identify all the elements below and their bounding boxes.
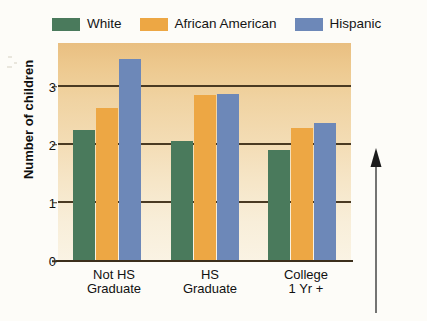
- x-tick-line1: HS: [160, 268, 260, 282]
- chart-figure: White African American Hispanic 0123 Num…: [0, 0, 427, 321]
- x-tick-line1: Not HS: [64, 268, 164, 282]
- gridline-3: [58, 85, 351, 87]
- bar-african-american-group-2: [194, 95, 216, 261]
- x-tick-line2: Graduate: [64, 282, 164, 296]
- legend-swatch-white: [52, 18, 80, 31]
- x-tick-line2: Graduate: [160, 282, 260, 296]
- bar-african-american-group-3: [291, 128, 313, 261]
- plot-area: [58, 43, 351, 261]
- x-tick-line2: 1 Yr +: [256, 282, 356, 296]
- y-tick-mark-0: [52, 260, 57, 262]
- x-tick-label-group-2: HS Graduate: [160, 268, 260, 296]
- legend-item-white: White: [52, 17, 122, 31]
- chart-legend: White African American Hispanic: [52, 14, 399, 34]
- legend-swatch-hispanic: [295, 18, 323, 31]
- bar-hispanic-group-3: [314, 123, 336, 261]
- legend-item-african-american: African American: [140, 17, 277, 31]
- y-tick-mark-1: [52, 202, 57, 204]
- y-tick-mark-3: [52, 86, 57, 88]
- y-tick-mark-2: [52, 144, 57, 146]
- y-tick-label-0: 0: [10, 254, 56, 269]
- x-tick-line1: College: [256, 268, 356, 282]
- legend-label-hispanic: Hispanic: [330, 17, 382, 31]
- x-tick-label-group-1: Not HS Graduate: [64, 268, 164, 296]
- legend-label-african-american: African American: [175, 17, 277, 31]
- bar-white-group-2: [171, 141, 193, 261]
- bar-hispanic-group-1: [119, 59, 141, 261]
- x-tick-label-group-3: College 1 Yr +: [256, 268, 356, 296]
- x-axis-line: [56, 260, 353, 262]
- bar-white-group-3: [268, 150, 290, 261]
- bar-white-group-1: [73, 130, 95, 261]
- legend-label-white: White: [87, 17, 122, 31]
- legend-swatch-african-american: [140, 18, 168, 31]
- bar-hispanic-group-2: [217, 94, 239, 261]
- bar-african-american-group-1: [96, 108, 118, 261]
- y-axis-title: Number of children: [21, 40, 36, 200]
- legend-item-hispanic: Hispanic: [295, 17, 382, 31]
- upward-arrow-icon: [368, 148, 384, 313]
